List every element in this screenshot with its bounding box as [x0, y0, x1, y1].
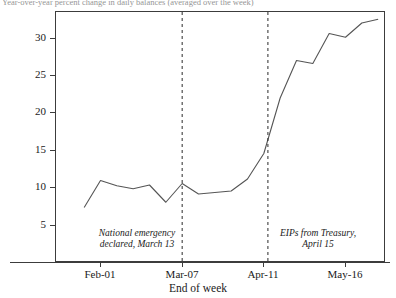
x-tick-label-mar-07: Mar-07	[147, 268, 217, 280]
x-axis-label: End of week	[0, 282, 396, 294]
x-tick-mark-mar-07	[182, 262, 183, 267]
x-tick-mark-feb-01	[100, 262, 101, 267]
annotation-eips-treasury: EIPs from Treasury, April 15	[258, 228, 378, 250]
data-line	[84, 19, 378, 207]
x-tick-label-feb-01: Feb-01	[65, 268, 135, 280]
x-tick-label-may-16: May-16	[310, 268, 380, 280]
annotation-national-emergency: National emergency declared, March 13	[78, 228, 196, 250]
x-tick-mark-may-16	[345, 262, 346, 267]
x-axis-line	[10, 262, 390, 263]
x-tick-mark-apr-11	[263, 262, 264, 267]
x-tick-label-apr-11: Apr-11	[228, 268, 298, 280]
chart-figure: Year-over-year percent change in daily b…	[0, 0, 396, 298]
series-layer	[0, 0, 396, 298]
